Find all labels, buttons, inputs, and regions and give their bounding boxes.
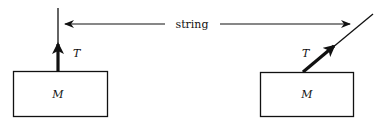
right-tension-label: T bbox=[302, 47, 311, 60]
left-tension-label: T bbox=[73, 47, 82, 60]
string-label: string bbox=[176, 18, 209, 31]
right-setup: T M bbox=[261, 14, 374, 117]
diagram-canvas: T M string T M bbox=[0, 0, 381, 127]
left-mass-label: M bbox=[51, 88, 64, 101]
right-mass-label: M bbox=[300, 88, 313, 101]
string-callout: string bbox=[65, 18, 350, 31]
